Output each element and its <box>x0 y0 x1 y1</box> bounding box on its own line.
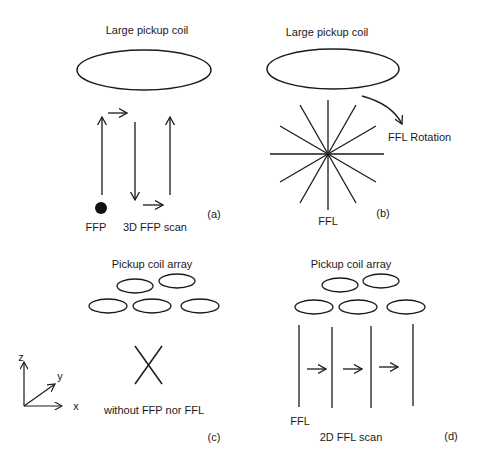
diagram-svg: Large pickup coil FFP 3D FFP scan (a) La… <box>0 0 482 462</box>
ffl-label: FFL <box>290 415 310 427</box>
panel-a-title: Large pickup coil <box>106 24 189 36</box>
large-pickup-coil <box>77 50 211 90</box>
panel-c: Pickup coil array z y x without FFP nor … <box>18 258 220 443</box>
rotation-arrow <box>362 96 402 124</box>
panel-d: Pickup coil array FFL 2D FFL scan (d) <box>290 258 458 443</box>
ffl-lines <box>299 324 413 408</box>
panel-d-title: Pickup coil array <box>311 258 392 270</box>
panel-d-tag: (d) <box>444 430 457 442</box>
panel-b-title: Large pickup coil <box>286 26 369 38</box>
ffl-rotation-label: FFL Rotation <box>388 131 451 143</box>
no-field-free-cross <box>135 346 162 384</box>
large-pickup-coil <box>267 49 399 89</box>
ffl-label: FFL <box>318 215 338 227</box>
panel-b-tag: (b) <box>376 207 389 219</box>
2d-ffl-scan-label: 2D FFL scan <box>320 431 383 443</box>
scan-arrows <box>307 367 398 369</box>
ffl-starburst <box>270 100 384 210</box>
panel-c-tag: (c) <box>208 431 221 443</box>
coordinate-axes <box>24 362 62 406</box>
panel-a: Large pickup coil FFP 3D FFP scan (a) <box>77 24 221 233</box>
caption-without-ffp-ffl: without FFP nor FFL <box>103 404 204 416</box>
pickup-coil-array <box>295 274 425 314</box>
3d-ffp-scan-label: 3D FFP scan <box>123 221 187 233</box>
panel-b: Large pickup coil FFL Rotation FFL (b) <box>267 26 451 227</box>
figure-canvas: Large pickup coil FFP 3D FFP scan (a) La… <box>0 0 482 462</box>
panel-a-tag: (a) <box>207 208 220 220</box>
panel-c-title: Pickup coil array <box>112 258 193 270</box>
ffp-label: FFP <box>86 221 107 233</box>
ffp-dot <box>95 202 107 214</box>
axis-x-label: x <box>73 400 79 412</box>
pickup-coil-array <box>89 274 219 313</box>
axis-y-label: y <box>57 370 63 382</box>
axis-z-label: z <box>18 351 24 363</box>
